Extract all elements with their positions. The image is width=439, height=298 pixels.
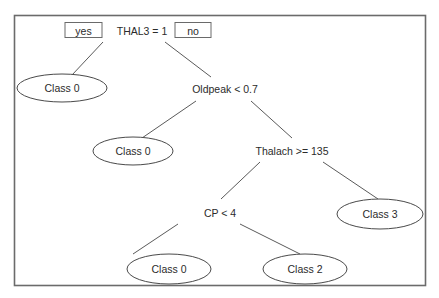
leaf-class0-top: Class 0 [17, 74, 107, 102]
yes-label-text: yes [75, 25, 91, 37]
leaf-class0-bottom: Class 0 [127, 254, 211, 284]
node-cp: CP < 4 [204, 207, 236, 219]
node-thalach: Thalach >= 135 [256, 145, 329, 157]
decision-tree-diagram: yes no THAL3 = 1 Class 0 Oldpeak < 0.7 C… [0, 0, 439, 298]
leaf-class0-middle: Class 0 [93, 137, 173, 165]
leaf-label: Class 3 [362, 208, 397, 220]
leaf-label: Class 0 [151, 263, 186, 275]
no-label-text: no [187, 25, 199, 37]
node-oldpeak: Oldpeak < 0.7 [192, 83, 258, 95]
leaf-label: Class 2 [287, 263, 322, 275]
leaf-class2: Class 2 [263, 254, 347, 284]
leaf-class3: Class 3 [337, 199, 423, 229]
leaf-label: Class 0 [115, 145, 150, 157]
leaf-label: Class 0 [44, 82, 79, 94]
branch-label-no: no [175, 23, 211, 38]
branch-label-yes: yes [65, 23, 102, 38]
node-root-thal3: THAL3 = 1 [117, 25, 168, 37]
diagram-frame [15, 16, 426, 286]
